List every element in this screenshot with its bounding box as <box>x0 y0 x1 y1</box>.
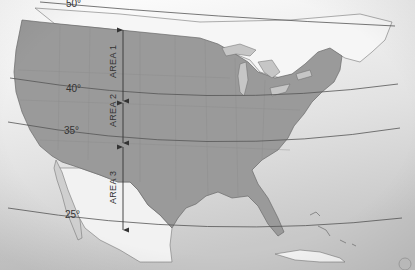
map-canvas: 50° 40° 35° 25° AREA 1 AREA 2 AREA 3 <box>0 0 415 270</box>
vignette <box>0 0 415 270</box>
latitude-area-map: 50° 40° 35° 25° AREA 1 AREA 2 AREA 3 <box>0 0 415 270</box>
